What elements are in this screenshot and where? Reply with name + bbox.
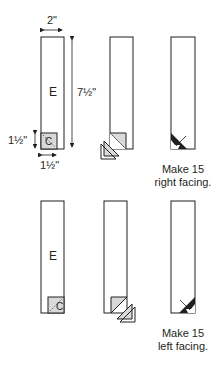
row1-step3-strip xyxy=(171,37,195,149)
dim-square-width-label: 1½" xyxy=(40,159,59,172)
row2-caption-line2: left facing. xyxy=(143,340,220,353)
row1-caption-line1: Make 15 xyxy=(143,163,220,176)
row2-step2-strip xyxy=(104,201,135,322)
row2-step3-strip xyxy=(171,201,195,313)
unit-c-label-row2: C xyxy=(56,300,63,313)
dim-square-height-label: 1½" xyxy=(8,134,27,147)
unit-e-label: E xyxy=(49,86,57,99)
unit-e-label-row2: E xyxy=(49,250,57,263)
row1-caption-line2: right facing. xyxy=(143,176,220,189)
row2-caption-line1: Make 15 xyxy=(143,327,220,340)
dim-height-label: 7½" xyxy=(77,86,96,99)
row2-caption: Make 15 left facing. xyxy=(143,327,220,353)
unit-c-label: C xyxy=(45,135,52,148)
row1-caption: Make 15 right facing. xyxy=(143,163,220,189)
row1-step2-strip xyxy=(101,37,133,159)
dim-width-label: 2" xyxy=(47,14,57,27)
